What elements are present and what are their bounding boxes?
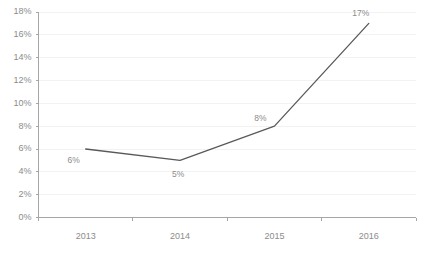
y-axis-tick-label: 2% (18, 189, 31, 199)
y-axis-tick-label: 0% (18, 212, 31, 222)
chart-background (0, 0, 428, 259)
x-axis-tick-label: 2013 (76, 231, 96, 241)
data-point-label: 5% (172, 169, 185, 179)
y-axis-tick-label: 6% (18, 143, 31, 153)
y-axis-tick-label: 16% (13, 29, 31, 39)
x-axis-tick-label: 2016 (359, 231, 379, 241)
chart-canvas: 0%2%4%6%8%10%12%14%16%18% 20132014201520… (0, 0, 428, 259)
data-point-label: 6% (68, 155, 81, 165)
x-axis-tick-label: 2014 (170, 231, 190, 241)
data-point-label: 8% (254, 113, 267, 123)
x-axis-tick-label: 2015 (264, 231, 284, 241)
y-axis-tick-label: 8% (18, 121, 31, 131)
footer-text-fragment (2, 250, 202, 259)
y-axis-tick-label: 14% (13, 52, 31, 62)
data-point-label: 17% (352, 8, 369, 18)
y-axis-tick-label: 4% (18, 166, 31, 176)
line-chart: 0%2%4%6%8%10%12%14%16%18% 20132014201520… (0, 0, 428, 259)
y-axis-tick-label: 12% (13, 75, 31, 85)
y-axis-tick-label: 10% (13, 98, 31, 108)
y-axis-tick-label: 18% (13, 6, 31, 16)
